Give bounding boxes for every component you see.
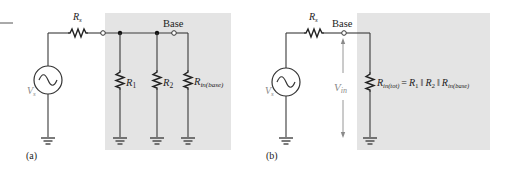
base-label: Base [163, 18, 184, 29]
circuit-diagram: Rs Base Vs R1 [0, 0, 510, 177]
vs-label: Vs [27, 85, 36, 98]
ground-icon [279, 138, 293, 144]
caption-b: (b) [266, 150, 278, 162]
base-terminal [342, 31, 347, 36]
vin-label: Vin [334, 81, 347, 95]
source-resistor-rs [68, 29, 88, 37]
ground-icon [41, 138, 55, 144]
source-resistor-rs [304, 29, 324, 37]
caption-a: (a) [26, 150, 37, 162]
base-terminal [172, 31, 177, 36]
base-label: Base [332, 18, 353, 29]
terminal-node [101, 31, 106, 36]
rs-label: Rs [308, 11, 318, 24]
panel-a: Rs Base Vs R1 [0, 11, 231, 162]
rs-label: Rs [72, 11, 82, 24]
panel-b: Rs Base Vs Vin [265, 11, 490, 162]
